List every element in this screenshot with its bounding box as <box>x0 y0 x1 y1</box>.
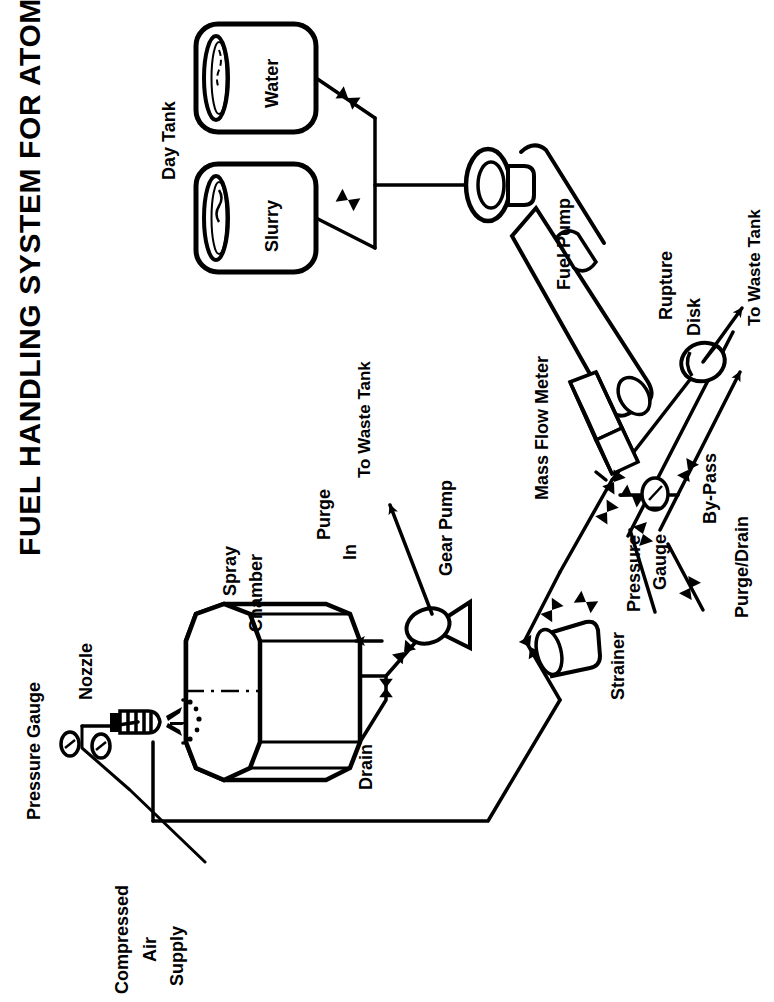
spray-chamber: Spray Chamber <box>186 546 360 780</box>
day-tank-label: Day Tank <box>159 100 179 180</box>
to-waste-tank-upper-label: To Waste Tank <box>355 361 374 478</box>
valve-chamber-outlet <box>379 679 393 698</box>
pressure-gauge-line: Pressure Gauge <box>624 478 670 612</box>
drain-label: Drain <box>356 744 376 790</box>
nozzle: Nozzle <box>76 643 202 745</box>
tank-outlet-piping <box>316 78 468 248</box>
gear-pump <box>402 602 470 649</box>
strainer: Strainer <box>532 622 628 700</box>
compressed-air-label-l1: Compressed <box>112 885 132 994</box>
day-tank-slurry: Slurry <box>196 164 316 272</box>
gear-pump-label: Gear Pump <box>436 480 456 576</box>
rupture-disk: Rupture Disk <box>656 251 730 387</box>
pressure-gauge-line-label-l1: Pressure <box>624 535 644 612</box>
fuel-pump-label: Fuel Pump <box>554 198 574 290</box>
figure-title: FUEL HANDLING SYSTEM FOR ATOMIZATION TES… <box>13 0 46 556</box>
fuel-handling-system-diagram: FUEL HANDLING SYSTEM FOR ATOMIZATION TES… <box>0 0 774 1002</box>
compressed-air-label-l2: Air <box>140 937 160 962</box>
to-waste-arrow-upper <box>390 505 432 614</box>
mass-flow-meter-label: Mass Flow Meter <box>532 356 552 500</box>
day-tank-slurry-label: Slurry <box>262 200 282 252</box>
pressure-gauge-line-label-l2: Gauge <box>650 534 670 590</box>
rupture-disk-label-l2: Disk <box>684 297 704 336</box>
day-tank-water-label: Water <box>262 59 282 108</box>
diagram-canvas: FUEL HANDLING SYSTEM FOR ATOMIZATION TES… <box>0 0 774 1002</box>
strainer-label: Strainer <box>608 632 628 700</box>
spray-chamber-label-line2: Chamber <box>246 554 266 632</box>
pressure-gauge-air-2 <box>61 732 79 756</box>
purge-in-label-l2: In <box>340 544 360 560</box>
purge-drain-label: Purge/Drain <box>732 516 752 618</box>
valve-strainer-side <box>574 591 598 614</box>
day-tank-group: Water Slurry Day Tank <box>159 24 316 272</box>
by-pass-label: By-Pass <box>700 453 720 524</box>
valve-slurry-outlet <box>336 189 361 211</box>
nozzle-label: Nozzle <box>76 643 96 700</box>
title-text: FUEL HANDLING SYSTEM FOR ATOMIZATION TES… <box>13 0 46 556</box>
to-waste-tank-lower-label: To Waste Tank <box>745 209 764 326</box>
pressure-gauge-air-label: Pressure Gauge <box>24 682 44 820</box>
fuel-pump: Fuel Pump <box>466 145 656 420</box>
compressed-air-label-l3: Supply <box>167 926 187 986</box>
purge-in-label-l1: Purge <box>314 489 334 540</box>
spray-chamber-label-line1: Spray <box>220 546 240 596</box>
pressure-gauge-air <box>92 734 110 758</box>
day-tank-water: Water <box>196 24 316 132</box>
rupture-disk-label-l1: Rupture <box>656 251 676 320</box>
